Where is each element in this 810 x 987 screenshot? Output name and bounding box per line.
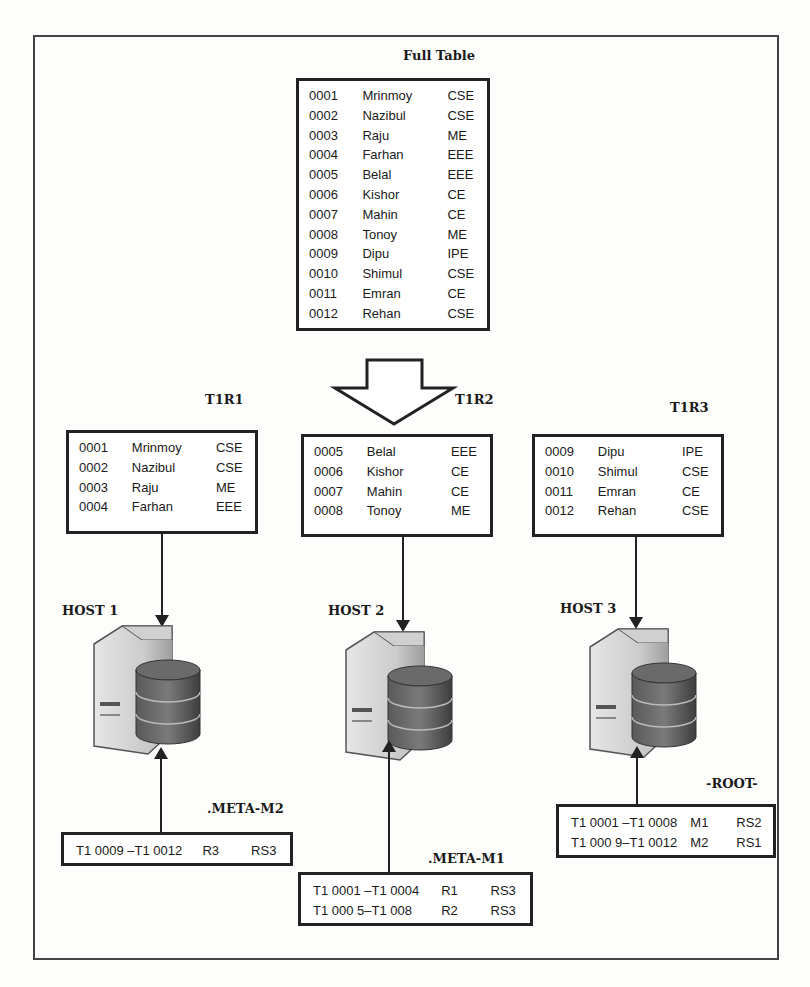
table-row: 0002NazibulCSE bbox=[79, 458, 255, 478]
row-name: Farhan bbox=[362, 145, 447, 165]
region-title-t1r1: T1R1 bbox=[205, 392, 244, 407]
row-dept: CSE bbox=[447, 106, 487, 126]
row-name: Nazibul bbox=[132, 458, 216, 478]
region-id: R3 bbox=[202, 841, 251, 861]
row-id: 0004 bbox=[309, 145, 362, 165]
table-row: 0012RehanCSE bbox=[545, 501, 721, 521]
row-name: Emran bbox=[362, 284, 447, 304]
table-row: 0007MahinCE bbox=[309, 205, 487, 225]
table-row: 0007MahinCE bbox=[314, 482, 490, 502]
meta-row: T1 0001 –T1 0008M1RS2 bbox=[571, 813, 773, 833]
row-id: 0006 bbox=[314, 462, 367, 482]
row-name: Belal bbox=[362, 165, 447, 185]
row-name: Dipu bbox=[362, 244, 447, 264]
row-name: Kishor bbox=[362, 185, 447, 205]
region-id: R1 bbox=[441, 881, 490, 901]
region-id: R2 bbox=[441, 901, 490, 921]
row-name: Mahin bbox=[362, 205, 447, 225]
meta-row: T1 0009 –T1 0012R3RS3 bbox=[76, 841, 290, 861]
table-row: 0010ShimulCSE bbox=[545, 462, 721, 482]
server-database-icon-host3 bbox=[588, 625, 698, 765]
row-id: 0003 bbox=[79, 478, 132, 498]
host-label-3: HOST 3 bbox=[560, 601, 616, 616]
server-database-icon-host2 bbox=[344, 628, 454, 768]
row-id: 0010 bbox=[545, 462, 598, 482]
table-row: 0012RehanCSE bbox=[309, 304, 487, 324]
row-dept: CSE bbox=[447, 264, 487, 284]
row-dept: CE bbox=[447, 205, 487, 225]
region-server: RS2 bbox=[736, 813, 773, 833]
row-dept: ME bbox=[451, 501, 490, 521]
row-name: Raju bbox=[132, 478, 216, 498]
root-table: T1 0001 –T1 0008M1RS2T1 000 9–T1 0012M2R… bbox=[556, 804, 776, 858]
server-database-icon-host1 bbox=[92, 622, 202, 762]
row-id: 0006 bbox=[309, 185, 362, 205]
row-id: 0012 bbox=[545, 501, 598, 521]
table-row: 0003RajuME bbox=[79, 478, 255, 498]
arrow-line-r3-host3 bbox=[635, 536, 637, 619]
row-dept: CE bbox=[451, 482, 490, 502]
table-row: 0009DipuIPE bbox=[545, 442, 721, 462]
region-title-t1r2: T1R2 bbox=[455, 392, 494, 407]
row-name: Dipu bbox=[598, 442, 682, 462]
meta-row: T1 0001 –T1 0004R1RS3 bbox=[313, 881, 530, 901]
arrow-head-up-icon bbox=[630, 746, 644, 758]
row-dept: CSE bbox=[682, 501, 721, 521]
row-id: 0012 bbox=[309, 304, 362, 324]
row-name: Rehan bbox=[598, 501, 682, 521]
row-name: Rehan bbox=[362, 304, 447, 324]
row-dept: CSE bbox=[447, 86, 487, 106]
row-id: 0001 bbox=[309, 86, 362, 106]
arrow-head-up-icon bbox=[154, 747, 168, 759]
region-server: RS3 bbox=[251, 841, 290, 861]
row-id: 0007 bbox=[314, 482, 367, 502]
table-row: 0004FarhanEEE bbox=[309, 145, 487, 165]
table-row: 0006KishorCE bbox=[309, 185, 487, 205]
row-name: Nazibul bbox=[362, 106, 447, 126]
table-row: 0008TonoyME bbox=[314, 501, 490, 521]
row-dept: CE bbox=[682, 482, 721, 502]
table-row: 0004FarhanEEE bbox=[79, 497, 255, 517]
row-name: Shimul bbox=[362, 264, 447, 284]
arrow-head-up-icon bbox=[382, 740, 396, 752]
row-id: 0002 bbox=[309, 106, 362, 126]
row-dept: ME bbox=[447, 225, 487, 245]
region-server: RS3 bbox=[491, 901, 530, 921]
arrow-line-metam1-host2 bbox=[388, 750, 390, 872]
meta-row: T1 000 5–T1 008R2RS3 bbox=[313, 901, 530, 921]
row-dept: EEE bbox=[447, 145, 487, 165]
row-dept: CE bbox=[447, 284, 487, 304]
region-title-t1r3: T1R3 bbox=[670, 400, 709, 415]
row-name: Tonoy bbox=[367, 501, 451, 521]
key-range: T1 000 9–T1 0012 bbox=[571, 833, 690, 853]
key-range: T1 0001 –T1 0008 bbox=[571, 813, 690, 833]
row-dept: EEE bbox=[216, 497, 255, 517]
row-id: 0009 bbox=[309, 244, 362, 264]
row-name: Farhan bbox=[132, 497, 216, 517]
row-id: 0009 bbox=[545, 442, 598, 462]
row-id: 0001 bbox=[79, 438, 132, 458]
region-server: RS3 bbox=[491, 881, 530, 901]
meta-m1-title: .META-M1 bbox=[428, 851, 505, 866]
region-server: RS1 bbox=[736, 833, 773, 853]
full-table-title: Full Table bbox=[403, 48, 475, 63]
row-id: 0008 bbox=[309, 225, 362, 245]
table-row: 0011EmranCE bbox=[309, 284, 487, 304]
table-row: 0002NazibulCSE bbox=[309, 106, 487, 126]
table-row: 0001MrinmoyCSE bbox=[79, 438, 255, 458]
row-name: Mahin bbox=[367, 482, 451, 502]
key-range: T1 000 5–T1 008 bbox=[313, 901, 441, 921]
row-name: Kishor bbox=[367, 462, 451, 482]
row-id: 0005 bbox=[309, 165, 362, 185]
row-name: Emran bbox=[598, 482, 682, 502]
table-row: 0008TonoyME bbox=[309, 225, 487, 245]
row-id: 0003 bbox=[309, 126, 362, 146]
table-row: 0011EmranCE bbox=[545, 482, 721, 502]
row-dept: CSE bbox=[682, 462, 721, 482]
row-dept: CE bbox=[451, 462, 490, 482]
key-range: T1 0001 –T1 0004 bbox=[313, 881, 441, 901]
row-id: 0010 bbox=[309, 264, 362, 284]
row-id: 0011 bbox=[545, 482, 598, 502]
region-id: M1 bbox=[690, 813, 736, 833]
region-table-t1r1: 0001MrinmoyCSE0002NazibulCSE0003RajuME00… bbox=[66, 430, 258, 534]
